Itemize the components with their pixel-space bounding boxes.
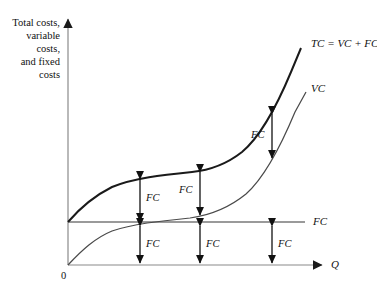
fc-label-axis-1: FC — [146, 238, 159, 249]
origin-label: 0 — [61, 270, 66, 281]
fc-label-tc-vc-1: FC — [146, 192, 159, 203]
fixed-cost-line-label: FC — [313, 215, 327, 227]
x-axis-label: Q — [331, 258, 339, 270]
variable-cost-curve-label: VC — [311, 82, 325, 94]
figure-canvas: Total costs, variable costs, and fixed c… — [0, 0, 377, 291]
total-cost-curve — [68, 48, 301, 222]
fc-label-axis-2: FC — [206, 238, 219, 249]
y-axis-caption: Total costs, variable costs, and fixed c… — [2, 16, 60, 81]
variable-cost-curve — [68, 92, 306, 265]
fc-label-tc-vc-2: FC — [179, 184, 192, 195]
fc-label-tc-vc-3: FC — [251, 129, 264, 140]
total-cost-curve-label: TC = VC + FC — [311, 37, 377, 49]
fc-label-axis-3: FC — [278, 238, 291, 249]
